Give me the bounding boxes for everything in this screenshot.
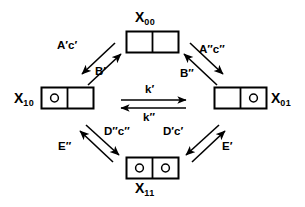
node-label-x01-sub: 01 (280, 98, 291, 108)
rate-label-e-prime: E′ (222, 141, 232, 153)
rate-label-k-dprime: k″ (143, 112, 155, 124)
node-box-x11 (127, 158, 179, 179)
diagram-canvas: X00 X10 X01 X11 A′c′ B′ A″c″ B″ k′ k″ D″… (0, 0, 305, 207)
node-label-x11: X11 (135, 181, 154, 195)
node-box-x01 (215, 88, 267, 109)
node-label-x11-sub: 11 (144, 188, 154, 198)
arrow-x11-to-x01 (192, 131, 225, 162)
node-label-x10: X10 (14, 91, 34, 105)
arrow-x01-to-x11 (186, 125, 219, 155)
node-label-x10-base: X (14, 90, 23, 106)
node-label-x00-base: X (135, 9, 144, 25)
rate-label-d-prime-c-prime: D′c′ (163, 126, 183, 138)
rate-label-d-dprime-c-dprime: D″c″ (104, 126, 130, 138)
node-box-x10 (42, 88, 94, 109)
node-label-x00: X00 (135, 10, 155, 24)
diagram-vector-layer (0, 0, 305, 207)
node-label-x01: X01 (271, 91, 291, 105)
rate-label-a-dprime-c-dprime: A″c″ (199, 44, 225, 56)
node-label-x10-sub: 10 (23, 98, 34, 108)
node-label-x01-base: X (271, 90, 280, 106)
rate-label-b-prime: B′ (95, 66, 106, 78)
rate-label-k-prime: k′ (145, 84, 154, 96)
node-box-x00 (127, 32, 179, 53)
rate-label-b-dprime: B″ (180, 68, 194, 80)
rate-label-e-dprime: E″ (58, 141, 71, 153)
rate-label-a-prime-c-prime: A′c′ (57, 40, 77, 52)
node-label-x11-base: X (135, 180, 144, 196)
node-label-x00-sub: 00 (144, 17, 155, 27)
